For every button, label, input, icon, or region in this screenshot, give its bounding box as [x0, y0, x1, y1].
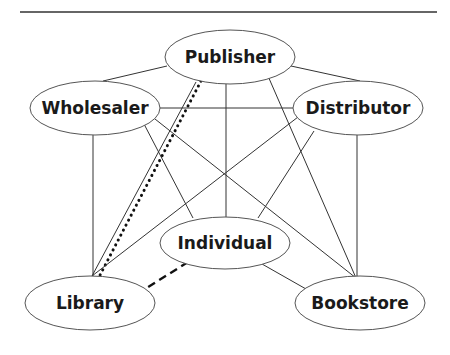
- individual-label: Individual: [178, 233, 273, 253]
- edge-individual-bookstore: [262, 264, 306, 289]
- edge-publisher-distributor: [291, 66, 360, 81]
- edge-distributor-individual: [258, 131, 314, 218]
- supply-chain-diagram: Publisher Wholesaler Distributor Individ…: [0, 0, 450, 355]
- bookstore-label: Bookstore: [311, 293, 408, 313]
- edge-individual-library-dashed: [145, 262, 188, 289]
- library-label: Library: [56, 293, 124, 313]
- node-publisher: Publisher: [165, 30, 295, 84]
- publisher-label: Publisher: [185, 47, 276, 67]
- node-bookstore: Bookstore: [295, 276, 425, 330]
- distributor-label: Distributor: [306, 98, 411, 118]
- edge-publisher-wholesaler: [103, 66, 167, 81]
- node-wholesaler: Wholesaler: [30, 81, 160, 135]
- node-individual: Individual: [160, 217, 290, 269]
- node-library: Library: [25, 276, 155, 330]
- wholesaler-label: Wholesaler: [41, 98, 149, 118]
- node-distributor: Distributor: [293, 81, 423, 135]
